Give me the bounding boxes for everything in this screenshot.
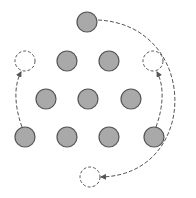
coin-c-r4-3 [99,127,119,147]
empty-position-t-right [143,51,163,71]
coin-c-r2-2 [57,51,77,71]
empty-position-t-bottom [80,167,100,187]
coin-c-r3-1 [36,89,56,109]
coin-c-r2-3 [99,51,119,71]
move-arrow-c-r4-1-to-t-left [16,72,22,127]
coin-c-r3-3 [121,89,141,109]
coin-c-top [77,12,97,32]
coin-triangle-diagram [0,0,196,198]
empty-target-positions [15,51,163,187]
coin-c-r4-1 [15,127,35,147]
empty-position-t-left [15,51,35,71]
coin-c-r3-2 [78,89,98,109]
coins [15,12,164,147]
move-arrow-c-r4-4-to-t-right [156,72,162,127]
coin-c-r4-4 [144,127,164,147]
coin-c-r4-2 [57,127,77,147]
